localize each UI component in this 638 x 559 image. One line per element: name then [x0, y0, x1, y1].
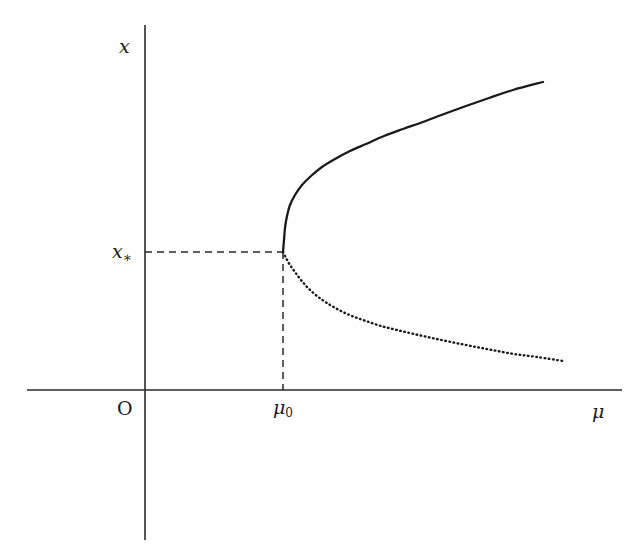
- bifurcation-plot-canvas: [0, 0, 638, 559]
- bifurcation-diagram-figure: x μ O x∗ μ0: [0, 0, 638, 559]
- stable-branch-curve: [283, 82, 543, 252]
- x-axis-tick-label-mu-zero: μ0: [273, 398, 293, 419]
- x-star-base: x: [112, 240, 123, 262]
- mu-zero-base: μ: [273, 396, 285, 418]
- y-axis-label: x: [119, 37, 130, 56]
- unstable-branch-curve: [283, 252, 563, 361]
- mu-zero-subscript: 0: [285, 406, 293, 420]
- x-axis-label: μ: [592, 402, 604, 421]
- origin-label: O: [117, 399, 133, 418]
- y-axis-tick-label-x-star: x∗: [112, 242, 132, 264]
- x-star-subscript: ∗: [123, 249, 133, 265]
